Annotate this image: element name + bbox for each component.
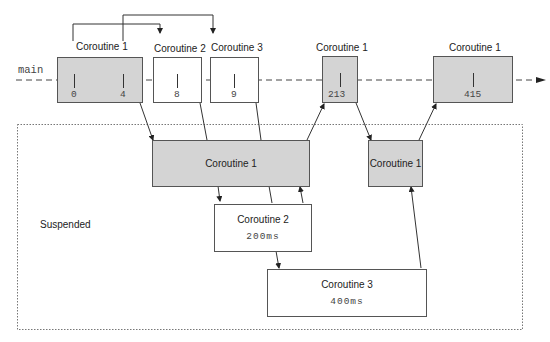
suspended-coroutine1-box: Coroutine 1 <box>152 140 310 187</box>
tick-label-9: 9 <box>231 89 237 100</box>
tick-label-8: 8 <box>174 89 180 100</box>
coroutine2-title: Coroutine 2 <box>154 43 206 54</box>
coroutine3-title: Coroutine 3 <box>211 42 263 53</box>
suspended-coroutine1-second-box: Coroutine 1 <box>368 140 423 187</box>
suspended-coroutine3-title: Coroutine 3 <box>321 279 373 290</box>
coroutine1-resume2-box: 415 <box>433 56 513 103</box>
tick-mark <box>74 74 75 88</box>
coroutine2-delay: 200ms <box>246 231 280 242</box>
tick-label-0: 0 <box>71 89 77 100</box>
tick-mark <box>234 74 235 88</box>
tick-label-415: 415 <box>464 89 481 100</box>
coroutine1-main-box: 0 4 <box>57 57 143 103</box>
suspended-coroutine1-title: Coroutine 1 <box>205 158 257 169</box>
coroutine1-resume1-box: 213 <box>322 56 358 103</box>
tick-label-213: 213 <box>328 89 345 100</box>
coroutine2-main-box: 8 <box>153 57 202 103</box>
tick-mark <box>473 73 474 87</box>
suspended-coroutine2-title: Coroutine 2 <box>237 214 289 225</box>
coroutine1-resume2-title: Coroutine 1 <box>449 42 501 53</box>
coroutine3-delay: 400ms <box>330 296 364 307</box>
suspended-label: Suspended <box>40 219 91 230</box>
suspended-coroutine2-box: Coroutine 2 200ms <box>214 204 312 252</box>
coroutine1-title: Coroutine 1 <box>76 41 128 52</box>
tick-mark <box>177 74 178 88</box>
launch-coroutine2-arrow <box>73 24 160 41</box>
tick-mark <box>123 74 124 88</box>
suspended-coroutine1-second-title: Coroutine 1 <box>370 158 422 169</box>
main-thread-label: main <box>18 64 43 76</box>
tick-mark <box>340 73 341 87</box>
coroutine1-resume1-title: Coroutine 1 <box>316 42 368 53</box>
tick-label-4: 4 <box>120 89 126 100</box>
launch-coroutine3-arrow <box>123 15 213 41</box>
suspended-coroutine3-box: Coroutine 3 400ms <box>267 269 427 317</box>
coroutine3-main-box: 9 <box>210 57 259 103</box>
